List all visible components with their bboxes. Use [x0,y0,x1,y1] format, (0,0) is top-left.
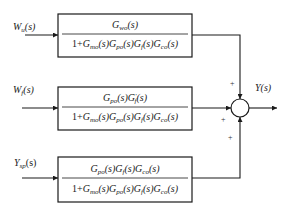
transfer-block-1: Gwo(s) 1+Gmo(s)Gpo(s)Gf(s)Gco(s) [58,14,192,57]
transfer-block-2: Gpo(s)G′f(s) 1+Gmo(s)Gpo(s)Gf(s)Gco(s) [58,87,192,130]
block-diagram: Wu(s) Wf(s) Ysp(s) Gwo(s) 1+Gmo(s)Gpo(s)… [0,0,287,212]
transfer-block-3: Gpo(s)Gf(s)Gco(s) 1+Gmo(s)Gpo(s)Gf(s)Gco… [58,157,192,202]
input-label-wf: Wf(s) [13,84,35,97]
block-3-output-wire [192,117,240,178]
block-1-output-wire [192,35,240,99]
input-label-wu: Wu(s) [13,21,36,34]
output-label: Y(s) [255,82,272,94]
block-1-frame [58,14,192,57]
input-label-ysp: Ysp(s) [14,157,36,170]
sign-bottom: + [228,133,233,142]
summing-junction [231,99,249,117]
sign-left: + [221,115,226,124]
sign-top: + [230,79,235,88]
